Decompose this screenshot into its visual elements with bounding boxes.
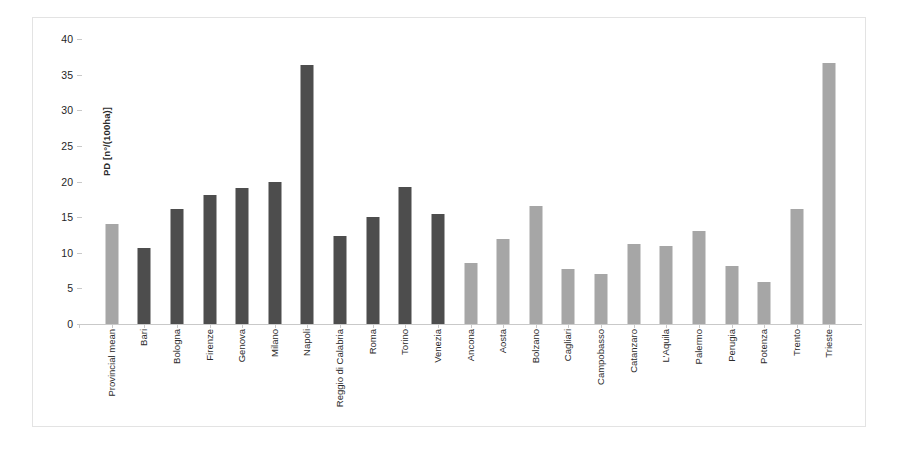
bar-slot: [226, 39, 259, 324]
x-axis-tick-label: Napoli: [303, 329, 313, 356]
x-axis-tick-label: Trento: [792, 329, 802, 356]
x-label-slot: Roma: [356, 329, 389, 424]
bar-slot: [650, 39, 683, 324]
x-tick-mark: [471, 324, 472, 328]
bar-slot: [389, 39, 422, 324]
bar: [268, 182, 281, 324]
bar: [464, 263, 477, 324]
bar: [236, 188, 249, 324]
x-axis-tick-label: Perugia: [727, 329, 737, 362]
y-tick-label: 0: [67, 318, 73, 330]
bar: [725, 266, 738, 324]
bar: [399, 187, 412, 325]
x-tick-mark: [764, 324, 765, 328]
bar-slot: [95, 39, 128, 324]
x-label-slot: Perugia: [715, 329, 748, 424]
x-label-slot: Venezia: [422, 329, 455, 424]
bar-slot: [748, 39, 781, 324]
x-label-slot: L'Aquila: [650, 329, 683, 424]
plot-area: [79, 39, 862, 324]
x-label-slot: Bolzano: [519, 329, 552, 424]
bar-slot: [487, 39, 520, 324]
bar-slot: [813, 39, 846, 324]
x-label-slot: Napoli: [291, 329, 324, 424]
bar: [595, 274, 608, 324]
bar: [138, 248, 151, 324]
bar: [529, 206, 542, 324]
x-tick-mark: [438, 324, 439, 328]
bar-slot: [552, 39, 585, 324]
bar-slot: [683, 39, 716, 324]
bar: [660, 246, 673, 324]
x-label-slot: Aosta: [487, 329, 520, 424]
x-label-slot: Potenza: [748, 329, 781, 424]
x-label-slot: Bari: [128, 329, 161, 424]
x-tick-mark: [405, 324, 406, 328]
x-label-slot: Trento: [780, 329, 813, 424]
y-tick-label: 40: [61, 33, 73, 45]
bar-slot: [291, 39, 324, 324]
x-tick-mark: [307, 324, 308, 328]
y-tick-label: 10: [61, 247, 73, 259]
bar-slot: [617, 39, 650, 324]
y-tick-label: 15: [61, 211, 73, 223]
x-axis-tick-label: Firenze: [205, 329, 215, 361]
bar: [562, 269, 575, 324]
bar: [497, 239, 510, 325]
bar: [170, 209, 183, 324]
x-axis-labels: Provincial meanBariBolognaFirenzeGenovaM…: [79, 329, 862, 424]
x-label-slot: Trieste: [813, 329, 846, 424]
bar: [431, 214, 444, 324]
x-tick-mark: [666, 324, 667, 328]
x-axis-tick-label: Bologna: [172, 329, 182, 364]
x-tick-mark: [797, 324, 798, 328]
bar-slot: [128, 39, 161, 324]
x-axis-tick-label: Genova: [237, 329, 247, 362]
x-label-slot: Bologna: [161, 329, 194, 424]
x-tick-mark: [210, 324, 211, 328]
bar-slot: [161, 39, 194, 324]
x-label-slot: Milano: [258, 329, 291, 424]
x-label-slot: Palermo: [683, 329, 716, 424]
x-tick-mark: [177, 324, 178, 328]
bar-slot: [519, 39, 552, 324]
x-axis-tick-label: Campobasso: [596, 329, 606, 385]
bar-slot: [715, 39, 748, 324]
x-tick-mark: [829, 324, 830, 328]
x-axis-tick-label: Catanzaro: [629, 329, 639, 373]
x-tick-mark: [112, 324, 113, 328]
x-axis-tick-label: Torino: [401, 329, 411, 355]
x-tick-mark: [144, 324, 145, 328]
bar: [301, 65, 314, 324]
x-tick-mark: [601, 324, 602, 328]
x-axis-tick-label: Palermo: [694, 329, 704, 364]
x-tick-mark: [79, 324, 80, 328]
bar: [790, 209, 803, 324]
x-axis-tick-label: Provincial mean: [107, 329, 117, 397]
x-tick-mark: [634, 324, 635, 328]
x-label-slot: Cagliari: [552, 329, 585, 424]
x-axis-tick-label: Cagliari: [564, 329, 574, 361]
x-axis-tick-label: Reggio di Calabria: [335, 329, 345, 407]
x-tick-mark: [732, 324, 733, 328]
x-tick-mark: [503, 324, 504, 328]
bar: [366, 217, 379, 324]
bar-slot: [585, 39, 618, 324]
bar: [105, 224, 118, 324]
x-axis-tick-label: Roma: [368, 329, 378, 354]
x-axis-tick-label: Trieste: [825, 329, 835, 358]
x-axis-tick-label: Bolzano: [531, 329, 541, 363]
bar-slot: [324, 39, 357, 324]
bar: [627, 244, 640, 324]
x-axis-tick-label: Aosta: [498, 329, 508, 353]
x-tick-mark: [536, 324, 537, 328]
x-axis-tick-label: Potenza: [759, 329, 769, 364]
bar: [758, 282, 771, 324]
y-tick-label: 35: [61, 69, 73, 81]
bar-slot: [258, 39, 291, 324]
bar-slot: [356, 39, 389, 324]
x-label-slot: Campobasso: [585, 329, 618, 424]
x-tick-mark: [275, 324, 276, 328]
x-axis-tick-label: Milano: [270, 329, 280, 357]
bar: [823, 63, 836, 324]
